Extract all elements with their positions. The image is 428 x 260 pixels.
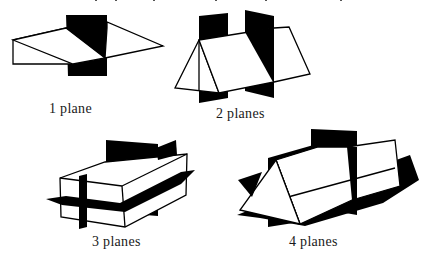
planes-of-symmetry-diagram	[0, 0, 428, 260]
label-two-planes: 2 planes	[216, 106, 265, 122]
figure-two-planes	[175, 10, 310, 103]
prism-right	[105, 22, 163, 58]
figure-four-planes	[237, 129, 419, 227]
figure-three-planes	[46, 140, 195, 229]
label-one-plane: 1 plane	[49, 101, 92, 117]
label-four-planes: 4 planes	[289, 234, 338, 250]
label-three-planes: 3 planes	[92, 234, 141, 250]
vertical-plane-front	[79, 174, 87, 229]
figure-one-plane	[13, 15, 163, 76]
